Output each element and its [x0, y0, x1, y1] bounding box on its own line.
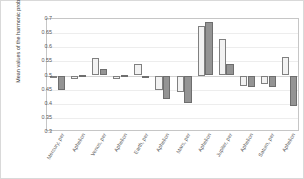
- bar-group: [68, 19, 89, 130]
- bar: [163, 76, 170, 99]
- y-tick-label: 0.7: [30, 15, 52, 21]
- y-tick-label: 0.5: [30, 72, 52, 78]
- bar-group: [89, 19, 110, 130]
- y-tick-label: 0.65: [30, 29, 52, 35]
- bar: [205, 22, 212, 75]
- bar-group: [174, 19, 195, 130]
- bar: [198, 26, 205, 76]
- bar: [282, 57, 289, 76]
- bar: [58, 76, 65, 91]
- bar-group: [216, 19, 237, 130]
- bar: [79, 75, 86, 77]
- bar: [261, 76, 268, 85]
- x-axis-ticks: Mercury, perAphelionVenus, perAphelionEa…: [46, 132, 299, 178]
- bar-group: [279, 19, 300, 130]
- bar: [92, 58, 99, 76]
- bar-series-container: [47, 19, 298, 130]
- chart-figure: Mean values of the harmonic probabilitie…: [0, 0, 304, 179]
- y-axis-title: Mean values of the harmonic probabilitie…: [15, 0, 21, 91]
- bar: [269, 76, 276, 87]
- bar: [113, 76, 120, 79]
- y-tick-label: 0.6: [30, 43, 52, 49]
- y-tick-label: 0.45: [30, 86, 52, 92]
- bar-group: [131, 19, 152, 130]
- bar: [121, 75, 128, 77]
- y-tick-label: 0.35: [30, 114, 52, 120]
- bar: [226, 64, 233, 75]
- y-tick-label: 0.55: [30, 57, 52, 63]
- bar-group: [152, 19, 173, 130]
- bar-group: [195, 19, 216, 130]
- bar: [219, 39, 226, 76]
- bar: [155, 76, 162, 91]
- bar-group: [237, 19, 258, 130]
- bar: [71, 76, 78, 79]
- bar: [290, 76, 297, 106]
- bar-group: [258, 19, 279, 130]
- bar: [184, 76, 191, 103]
- bar-group: [110, 19, 131, 130]
- bar: [240, 76, 247, 86]
- bar: [248, 76, 255, 88]
- bar: [100, 69, 107, 76]
- bar: [142, 76, 149, 78]
- y-tick-label: 0.4: [30, 100, 52, 106]
- bar: [134, 64, 141, 76]
- bar: [177, 76, 184, 93]
- plot-area: [46, 18, 299, 131]
